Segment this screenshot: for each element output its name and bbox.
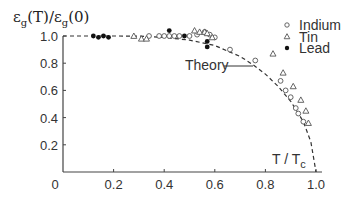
open-triangle-marker <box>280 70 286 75</box>
axes: 0.20.40.60.81.0 00.20.40.60.81.0 <box>40 29 325 192</box>
open-circle-marker <box>296 111 301 116</box>
y-tick-label: 0.8 <box>40 56 58 71</box>
filled-circle-marker <box>106 35 111 40</box>
open-triangle-marker <box>290 83 296 88</box>
open-circle-marker <box>253 58 258 63</box>
y-tick-label: 0.2 <box>40 138 58 153</box>
x-tick-label: 0.8 <box>256 177 274 192</box>
filled-circle-marker <box>182 34 187 39</box>
open-triangle-marker <box>192 28 198 33</box>
open-circle-marker <box>187 34 192 39</box>
x-tick-label: 0.4 <box>155 177 173 192</box>
x-tick-label: 0.6 <box>206 177 224 192</box>
y-tick-label: 1.0 <box>40 29 58 44</box>
open-circle-marker <box>162 34 167 39</box>
open-triangle-marker <box>298 97 304 102</box>
data-points <box>91 28 311 126</box>
x-tick-label: 0 <box>51 177 58 192</box>
theory-annotation: Theory <box>185 57 229 73</box>
open-triangle-marker <box>305 120 311 125</box>
x-tick-label: 0.2 <box>105 177 123 192</box>
legend-label: Lead <box>299 40 330 56</box>
filled-circle-marker <box>205 39 210 44</box>
open-circle-marker <box>301 119 306 124</box>
open-triangle-marker <box>270 51 276 56</box>
open-circle-marker <box>285 23 289 27</box>
y-tick-label: 0.4 <box>40 111 58 126</box>
open-circle-marker <box>288 95 293 100</box>
filled-circle-marker <box>167 28 172 33</box>
x-axis-label: T / Tc <box>272 151 306 170</box>
filled-circle-marker <box>96 35 101 40</box>
y-tick-label: 0.6 <box>40 83 58 98</box>
open-triangle-marker <box>303 108 309 113</box>
y-axis-label: εg(T)/εg(0) <box>13 8 89 28</box>
filled-circle-marker <box>285 46 289 50</box>
chart: εg(T)/εg(0) 0.20.40.60.81.0 00.20.40.60.… <box>0 0 346 201</box>
open-circle-marker <box>172 34 177 39</box>
legend: IndiumTinLead <box>284 17 341 56</box>
open-circle-marker <box>278 78 283 83</box>
legend-item-lead: Lead <box>285 40 330 56</box>
x-tick-label: 1.0 <box>307 177 325 192</box>
filled-circle-marker <box>101 34 106 39</box>
open-circle-marker <box>167 34 172 39</box>
y-ticks: 0.20.40.60.81.0 <box>40 29 66 153</box>
open-circle-marker <box>228 47 233 52</box>
open-circle-marker <box>177 34 182 39</box>
open-circle-marker <box>293 106 298 111</box>
filled-circle-marker <box>205 44 210 49</box>
open-triangle-marker <box>284 34 290 39</box>
open-circle-marker <box>157 34 162 39</box>
filled-circle-marker <box>91 34 96 39</box>
open-circle-marker <box>283 88 288 93</box>
